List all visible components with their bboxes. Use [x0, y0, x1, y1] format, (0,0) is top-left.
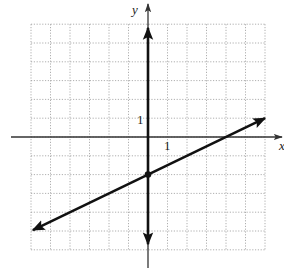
plotted-points [145, 171, 152, 178]
coordinate-graph: x y 1 1 [0, 0, 284, 270]
x-axis-label: x [278, 138, 284, 153]
y-axis-label: y [130, 2, 138, 17]
x-tick-label: 1 [164, 138, 171, 153]
y-intercept-point [145, 171, 152, 178]
plotted-lines [33, 28, 265, 244]
y-tick-label: 1 [137, 112, 144, 127]
